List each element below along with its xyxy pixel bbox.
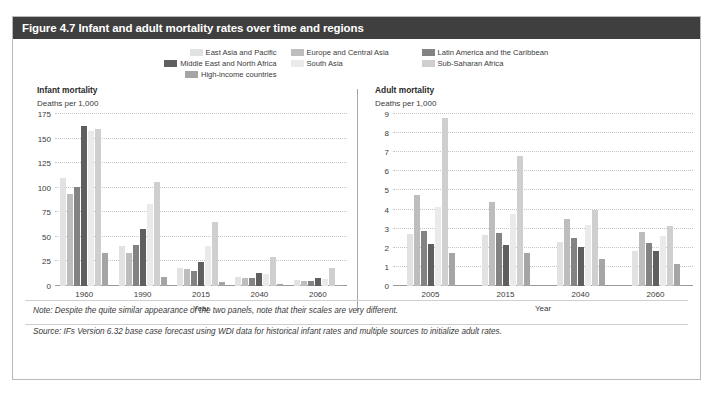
bar bbox=[449, 253, 455, 286]
legend-item-high-income-countries: High-income countries bbox=[142, 70, 277, 79]
bar bbox=[74, 187, 80, 286]
panel-title: Infant mortality bbox=[37, 85, 359, 95]
bar bbox=[592, 210, 598, 286]
bar bbox=[67, 194, 73, 286]
bar-group: 2015 bbox=[172, 114, 230, 286]
y-axis-tick: 8 bbox=[385, 129, 389, 138]
y-axis-tick: 125 bbox=[38, 159, 51, 168]
x-axis-tick: 2040 bbox=[572, 290, 590, 299]
bar bbox=[184, 269, 190, 286]
plot-area-adult: 01234567892005201520402060 bbox=[393, 114, 693, 286]
legend-item-sub-saharan-africa: Sub-Saharan Africa bbox=[412, 59, 572, 68]
y-axis-tick: 50 bbox=[42, 232, 51, 241]
bar bbox=[133, 245, 139, 286]
bar bbox=[414, 195, 420, 286]
legend-label: South Asia bbox=[307, 59, 343, 68]
x-axis-tick: 2015 bbox=[497, 290, 515, 299]
legend-spacer bbox=[277, 70, 412, 79]
panel-axis-unit: Deaths per 1,000 bbox=[37, 99, 359, 108]
figure-source: Source: IFs Version 6.32 base case forec… bbox=[33, 327, 680, 336]
y-axis-tick: 100 bbox=[38, 183, 51, 192]
panel-title: Adult mortality bbox=[375, 85, 697, 95]
bar-group: 2060 bbox=[618, 114, 693, 286]
legend-label: Europe and Central Asia bbox=[307, 48, 389, 57]
bar bbox=[578, 247, 584, 286]
y-axis-tick: 6 bbox=[385, 167, 389, 176]
y-axis-tick: 150 bbox=[38, 134, 51, 143]
bar-groups: 2005201520402060 bbox=[393, 114, 693, 286]
y-axis-tick: 0 bbox=[47, 282, 51, 291]
legend-label: High-income countries bbox=[201, 70, 277, 79]
bar bbox=[336, 285, 342, 286]
bar bbox=[126, 253, 132, 286]
bar bbox=[140, 229, 146, 286]
legend-label: Middle East and North Africa bbox=[180, 59, 276, 68]
x-axis-tick: 1960 bbox=[75, 290, 93, 299]
legend-swatch bbox=[164, 60, 177, 67]
legend-item-east-asia-and-pacific: East Asia and Pacific bbox=[142, 48, 277, 57]
bar bbox=[639, 232, 645, 286]
bar bbox=[667, 226, 673, 286]
bar bbox=[249, 278, 255, 286]
panel-infant-mortality: Infant mortality Deaths per 1,000 025507… bbox=[27, 85, 359, 317]
y-axis-tick: 0 bbox=[385, 282, 389, 291]
legend-swatch bbox=[422, 60, 435, 67]
legend-row: High-income countries bbox=[142, 70, 572, 79]
x-axis-tick: 2005 bbox=[422, 290, 440, 299]
bar-group: 2040 bbox=[543, 114, 618, 286]
bar bbox=[329, 268, 335, 286]
y-axis-tick: 3 bbox=[385, 224, 389, 233]
bar bbox=[242, 278, 248, 286]
bar bbox=[88, 131, 94, 286]
bar bbox=[212, 222, 218, 286]
x-axis-tick: 2060 bbox=[647, 290, 665, 299]
legend-item-middle-east-and-north-africa: Middle East and North Africa bbox=[142, 59, 277, 68]
bar bbox=[435, 207, 441, 286]
bar bbox=[599, 259, 605, 286]
legend-item-south-asia: South Asia bbox=[277, 59, 412, 68]
legend-row: Middle East and North Africa South Asia … bbox=[142, 59, 572, 68]
bar bbox=[524, 253, 530, 286]
bar bbox=[277, 284, 283, 286]
chart-panels: Infant mortality Deaths per 1,000 025507… bbox=[13, 85, 700, 317]
bar bbox=[503, 245, 509, 286]
note-divider bbox=[25, 300, 688, 301]
legend-label: Sub-Saharan Africa bbox=[438, 59, 504, 68]
source-divider bbox=[25, 324, 688, 325]
x-axis-tick: 1990 bbox=[134, 290, 152, 299]
bar bbox=[119, 246, 125, 286]
legend-swatch bbox=[190, 49, 203, 56]
bar bbox=[428, 244, 434, 286]
legend-swatch bbox=[291, 49, 304, 56]
bar bbox=[191, 271, 197, 286]
legend-swatch bbox=[185, 71, 198, 78]
bar bbox=[308, 281, 314, 286]
x-axis-tick: 2060 bbox=[309, 290, 327, 299]
bar bbox=[294, 280, 300, 286]
bar bbox=[198, 262, 204, 286]
y-axis-tick: 75 bbox=[42, 208, 51, 217]
y-axis-tick: 7 bbox=[385, 148, 389, 157]
legend-spacer bbox=[412, 70, 572, 79]
figure-notes: Note: Despite the quite similar appearan… bbox=[13, 306, 700, 348]
legend-label: East Asia and Pacific bbox=[206, 48, 277, 57]
bar bbox=[557, 242, 563, 286]
bar bbox=[632, 251, 638, 286]
bar bbox=[161, 277, 167, 286]
legend-item-latin-america-and-the-caribbean: Latin America and the Caribbean bbox=[412, 48, 572, 57]
legend-label: Latin America and the Caribbean bbox=[438, 48, 549, 57]
figure-note: Note: Despite the quite similar appearan… bbox=[33, 306, 680, 315]
bar bbox=[301, 281, 307, 286]
bar bbox=[442, 118, 448, 286]
bar bbox=[482, 235, 488, 286]
x-axis-tick: 2015 bbox=[192, 290, 210, 299]
y-axis-tick: 9 bbox=[385, 110, 389, 119]
bar bbox=[263, 274, 269, 286]
figure-title: Figure 4.7 Infant and adult mortality ra… bbox=[13, 17, 700, 39]
bar bbox=[407, 234, 413, 286]
bar bbox=[660, 236, 666, 286]
bar bbox=[517, 156, 523, 286]
bar bbox=[421, 231, 427, 286]
bar bbox=[489, 202, 495, 286]
bar bbox=[496, 233, 502, 287]
